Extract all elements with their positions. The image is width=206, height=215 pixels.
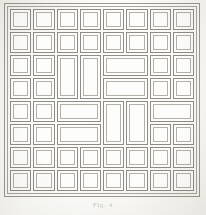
panel-r2c3 [57,32,78,53]
figure-plate: Fig. 4 [0,0,206,215]
panel-r2c6 [126,32,147,53]
panel-r1c3 [57,9,78,30]
panel-r5c7-wide [150,101,195,122]
panel-r6c7 [150,124,171,145]
panel-r1c1 [10,9,31,30]
panel-r7c7 [150,147,171,168]
panel-r8c7 [150,170,171,191]
panel-r8c4 [80,170,101,191]
panel-r3c4-tall [80,55,101,99]
panel-r6c8 [173,124,194,145]
panel-r4c8 [173,78,194,99]
panel-r7c6 [126,147,147,168]
panel-r8c5 [103,170,124,191]
panel-r3c7 [150,55,171,76]
panel-r4c7 [150,78,171,99]
panel-r6c2 [33,124,54,145]
panel-r2c2 [33,32,54,53]
panel-r1c7 [150,9,171,30]
panel-r7c8 [173,147,194,168]
panel-r7c2 [33,147,54,168]
panel-r1c8 [173,9,194,30]
panel-r4c2 [33,78,54,99]
panel-grid [9,8,195,192]
panel-r6c3-wide [57,124,102,145]
panel-r8c1 [10,170,31,191]
panel-r2c4 [80,32,101,53]
panel-r7c3 [57,147,78,168]
panel-r1c6 [126,9,147,30]
panel-r5c5-tall [103,101,124,145]
panel-r1c4 [80,9,101,30]
panel-r3c5-wide [103,55,148,76]
panel-r5c3-wide [57,101,102,122]
panel-r7c4 [80,147,101,168]
panel-r3c8 [173,55,194,76]
panel-r7c5 [103,147,124,168]
panel-r3c1 [10,55,31,76]
panel-r1c5 [103,9,124,30]
panel-r4c1 [10,78,31,99]
panel-r5c6-tall [126,101,147,145]
panel-r1c2 [33,9,54,30]
panel-r8c2 [33,170,54,191]
figure-caption: Fig. 4 [0,201,206,209]
panel-r3c3-tall [57,55,78,99]
panel-r4c5-wide [103,78,148,99]
panel-r8c8 [173,170,194,191]
panel-r6c1 [10,124,31,145]
panel-r2c7 [150,32,171,53]
panel-r7c1 [10,147,31,168]
panel-r5c2 [33,101,54,122]
panel-r3c2 [33,55,54,76]
panel-r2c1 [10,32,31,53]
panel-r2c5 [103,32,124,53]
panel-r8c3 [57,170,78,191]
panel-r8c6 [126,170,147,191]
panel-r5c1 [10,101,31,122]
panel-r2c8 [173,32,194,53]
